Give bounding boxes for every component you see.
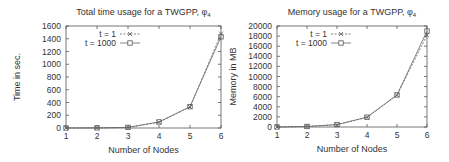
memory-usage-chart: Memory usage for a TWGPP, φ4020004000600… [224, 0, 449, 162]
y-tick-label: 2000 [253, 112, 272, 122]
x-tick-label: 5 [395, 130, 400, 140]
y-axis-label: Time in sec. [12, 53, 22, 101]
x-tick-label: 4 [157, 131, 162, 141]
x-tick-label: 3 [126, 131, 131, 141]
y-tick-label: 200 [47, 110, 61, 120]
y-tick-label: 18000 [248, 31, 272, 41]
y-tick-label: 0 [267, 122, 272, 132]
y-tick-label: 0 [56, 123, 61, 133]
y-tick-label: 8000 [253, 82, 272, 92]
time-usage-chart: Total time usage for a TWGPP, φ402004006… [0, 0, 225, 162]
y-tick-label: 1200 [42, 47, 61, 57]
time-usage-plot: Total time usage for a TWGPP, φ402004006… [0, 0, 225, 162]
y-tick-label: 6000 [253, 92, 272, 102]
y-tick-label: 4000 [253, 102, 272, 112]
y-tick-label: 16000 [248, 41, 272, 51]
series-line [277, 35, 427, 127]
legend-label: t = 1000 [296, 38, 327, 48]
legend-square-marker-icon [128, 41, 132, 45]
x-tick-label: 3 [335, 130, 340, 140]
x-axis-label: Number of Nodes [108, 145, 179, 155]
x-tick-label: 1 [64, 131, 69, 141]
chart-title: Memory usage for a TWGPP, φ4 [288, 7, 417, 18]
x-tick-label: 6 [425, 130, 430, 140]
y-axis-label: Memory in MB [228, 47, 238, 105]
y-tick-label: 800 [47, 72, 61, 82]
y-tick-label: 14000 [248, 51, 272, 61]
y-tick-label: 1600 [42, 21, 61, 31]
y-tick-label: 1400 [42, 34, 61, 44]
x-tick-label: 5 [188, 131, 193, 141]
y-tick-label: 20000 [248, 21, 272, 31]
y-tick-label: 12000 [248, 61, 272, 71]
x-tick-label: 2 [95, 131, 100, 141]
series-line [66, 37, 221, 128]
x-axis-label: Number of Nodes [317, 144, 388, 154]
legend-square-marker-icon [339, 41, 343, 45]
legend-label: t = 1000 [85, 38, 116, 48]
y-tick-label: 600 [47, 85, 61, 95]
x-tick-label: 4 [365, 130, 370, 140]
x-tick-label: 2 [305, 130, 310, 140]
memory-usage-plot: Memory usage for a TWGPP, φ4020004000600… [224, 0, 449, 162]
y-tick-label: 400 [47, 98, 61, 108]
chart-title: Total time usage for a TWGPP, φ4 [76, 7, 211, 18]
x-tick-label: 1 [275, 130, 280, 140]
x-tick-label: 6 [219, 131, 224, 141]
y-tick-label: 10000 [248, 72, 272, 82]
y-tick-label: 1000 [42, 59, 61, 69]
